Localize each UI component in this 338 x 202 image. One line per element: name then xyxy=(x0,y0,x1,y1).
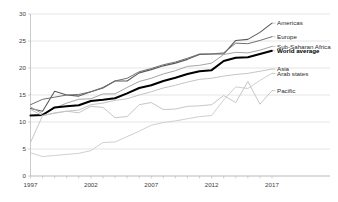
series-label-europe: Europe xyxy=(277,33,298,40)
x-tick-label-2012: 2012 xyxy=(205,181,219,188)
data-series-lines xyxy=(31,23,273,156)
y-tick-label-25: 25 xyxy=(19,37,26,44)
line-chart: 051015202530 19972002200720122017 Americ… xyxy=(0,0,338,202)
x-tick-label-2002: 2002 xyxy=(84,181,98,188)
y-tick-label-5: 5 xyxy=(23,145,27,152)
series-label-pacific: Pacific xyxy=(277,87,295,94)
x-tick-label-2007: 2007 xyxy=(144,181,158,188)
chart-canvas: 051015202530 19972002200720122017 Americ… xyxy=(0,0,338,202)
series-line-europe xyxy=(31,37,273,105)
series-label-world-average: World average xyxy=(277,47,320,54)
series-label-arab-states: Arab states xyxy=(277,70,308,77)
series-line-americas xyxy=(31,23,273,111)
x-tick-label-1997: 1997 xyxy=(24,181,38,188)
y-tick-label-15: 15 xyxy=(19,91,26,98)
y-tick-label-0: 0 xyxy=(23,172,27,179)
series-line-pacific xyxy=(31,82,273,143)
label-leader-lines xyxy=(272,23,276,91)
y-tick-label-30: 30 xyxy=(19,10,26,17)
x-tick-label-2017: 2017 xyxy=(265,181,279,188)
x-tick-labels: 19972002200720122017 xyxy=(24,181,280,188)
series-label-americas: Americas xyxy=(277,19,303,26)
series-labels: AmericasEuropeSub-Saharan AfricaWorld av… xyxy=(277,19,331,94)
x-tickmarks xyxy=(28,14,272,179)
series-line-world-average xyxy=(31,51,273,116)
series-line-sub-saharan-africa xyxy=(31,46,273,114)
y-tick-label-10: 10 xyxy=(19,118,26,125)
series-line-asia xyxy=(31,69,273,115)
y-tick-labels: 051015202530 xyxy=(19,10,26,179)
y-tick-label-20: 20 xyxy=(19,64,26,71)
